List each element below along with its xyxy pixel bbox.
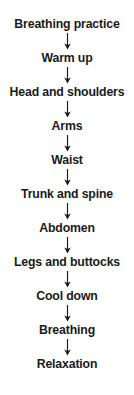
flow-step: Abdomen	[0, 221, 134, 236]
flow-step: Cool down	[0, 289, 134, 304]
flow-step: Head and shoulders	[0, 85, 134, 100]
flow-step: Breathing	[0, 323, 134, 338]
flow-step: Breathing practice	[0, 17, 134, 32]
arrow-down-icon	[0, 66, 134, 85]
arrow-down-icon	[0, 270, 134, 289]
arrow-down-icon	[0, 202, 134, 221]
arrow-down-icon	[0, 338, 134, 357]
flow-step: Relaxation	[0, 357, 134, 372]
arrow-down-icon	[0, 168, 134, 187]
arrow-down-icon	[0, 134, 134, 153]
arrow-down-icon	[0, 32, 134, 51]
flow-step: Arms	[0, 119, 134, 134]
flow-step: Warm up	[0, 51, 134, 66]
flow-step: Legs and buttocks	[0, 255, 134, 270]
arrow-down-icon	[0, 304, 134, 323]
flowchart-diagram: Breathing practice Warm up Head and shou…	[0, 0, 134, 395]
flow-step: Trunk and spine	[0, 187, 134, 202]
flow-step: Waist	[0, 153, 134, 168]
arrow-down-icon	[0, 100, 134, 119]
arrow-down-icon	[0, 236, 134, 255]
